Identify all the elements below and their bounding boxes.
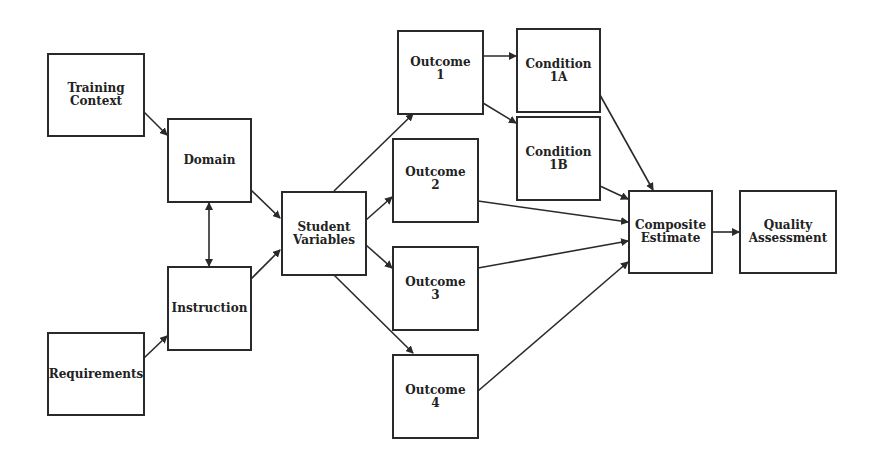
edge-requirements-instruction [144, 336, 167, 358]
node-quality-assessment: Quality Assessment [739, 190, 837, 274]
node-outcome-4: Outcome 4 [392, 354, 479, 439]
node-label: Condition 1B [525, 146, 591, 172]
node-outcome-1: Outcome 1 [397, 30, 484, 115]
node-label: Condition 1A [525, 58, 591, 84]
edge-outcome4-composite [478, 262, 628, 391]
node-requirements: Requirements [47, 332, 145, 416]
edge-instruction-student [251, 250, 280, 279]
node-label: Outcome 4 [405, 384, 465, 410]
edge-condition1b-composite [600, 186, 628, 199]
node-condition-1b: Condition 1B [516, 116, 601, 201]
edge-student-outcome2 [366, 197, 392, 220]
node-label: Training Context [67, 82, 124, 108]
node-domain: Domain [167, 118, 252, 203]
node-label: Student Variables [293, 221, 355, 247]
edge-condition1a-composite [600, 95, 653, 190]
node-label: Requirements [49, 368, 144, 381]
edge-outcome3-composite [478, 241, 628, 268]
node-training-context: Training Context [47, 53, 145, 137]
node-outcome-2: Outcome 2 [392, 138, 479, 223]
edge-outcome2-composite [478, 201, 628, 222]
node-label: Outcome 2 [405, 166, 465, 192]
node-student-variables: Student Variables [281, 191, 367, 276]
edge-student-outcome3 [366, 245, 392, 268]
node-label: Composite Estimate [635, 219, 706, 245]
node-label: Domain [183, 154, 235, 167]
node-label: Outcome 1 [410, 56, 470, 82]
node-instruction: Instruction [167, 266, 252, 351]
node-label: Instruction [172, 302, 248, 315]
node-condition-1a: Condition 1A [516, 28, 601, 113]
node-label: Outcome 3 [405, 276, 465, 302]
edge-domain-student [251, 190, 280, 218]
node-outcome-3: Outcome 3 [392, 246, 479, 331]
edge-outcome1-condition1b [483, 103, 516, 123]
edge-training-domain [144, 112, 167, 135]
node-composite-estimate: Composite Estimate [628, 190, 713, 274]
node-label: Quality Assessment [749, 219, 828, 245]
